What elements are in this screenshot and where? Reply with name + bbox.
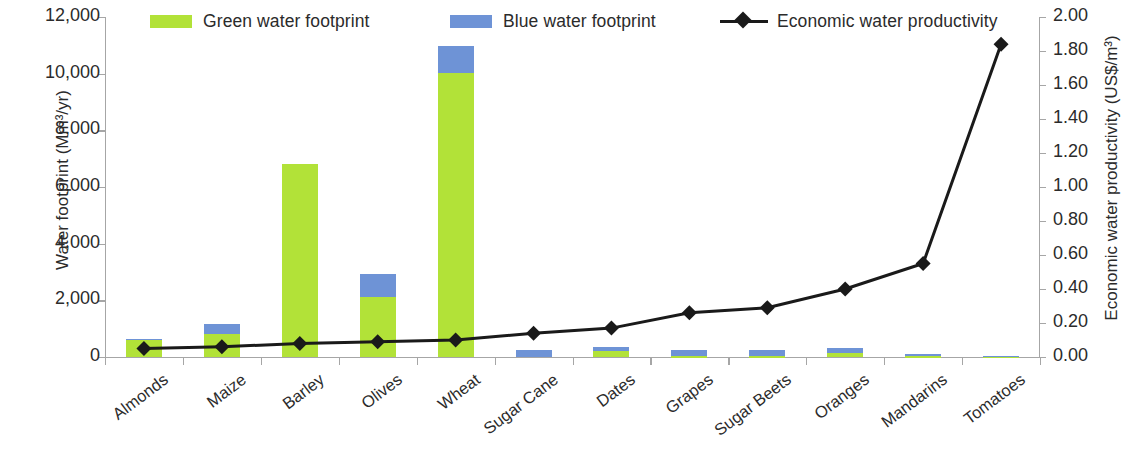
right-tick-mark bbox=[1039, 85, 1046, 86]
productivity-marker bbox=[370, 334, 385, 349]
productivity-marker bbox=[526, 326, 541, 341]
left-tick-label: 0 bbox=[0, 345, 100, 366]
productivity-line-series bbox=[105, 17, 1040, 358]
right-tick-mark bbox=[1039, 51, 1046, 52]
productivity-marker bbox=[214, 339, 229, 354]
right-tick-label: 1.20 bbox=[1053, 141, 1123, 162]
right-tick-mark bbox=[1039, 221, 1046, 222]
right-tick-label: 0.40 bbox=[1053, 277, 1123, 298]
productivity-marker bbox=[136, 341, 151, 356]
right-tick-label: 0.80 bbox=[1053, 209, 1123, 230]
right-tick-label: 1.00 bbox=[1053, 175, 1123, 196]
productivity-marker bbox=[916, 256, 931, 271]
right-tick-label: 0.00 bbox=[1053, 345, 1123, 366]
left-tick-label: 8,000 bbox=[0, 118, 100, 139]
productivity-marker bbox=[682, 305, 697, 320]
left-tick-label: 2,000 bbox=[0, 288, 100, 309]
productivity-marker bbox=[994, 37, 1009, 52]
right-tick-mark bbox=[1039, 289, 1046, 290]
left-tick-label: 4,000 bbox=[0, 232, 100, 253]
right-tick-label: 1.40 bbox=[1053, 107, 1123, 128]
left-tick-label: 12,000 bbox=[0, 5, 100, 26]
productivity-line bbox=[144, 44, 1001, 348]
x-axis-labels: AlmondsMaizeBarleyOlivesWheatSugar CaneD… bbox=[105, 362, 1040, 458]
plot-area: 02,0004,0006,0008,00010,00012,000 0.000.… bbox=[105, 17, 1040, 357]
productivity-marker bbox=[604, 321, 619, 336]
right-tick-mark bbox=[1039, 187, 1046, 188]
right-tick-mark bbox=[1039, 119, 1046, 120]
right-tick-label: 1.60 bbox=[1053, 73, 1123, 94]
right-tick-label: 1.80 bbox=[1053, 39, 1123, 60]
water-footprint-chart: Green water footprint Blue water footpri… bbox=[0, 0, 1125, 458]
right-tick-mark bbox=[1039, 323, 1046, 324]
productivity-marker bbox=[838, 282, 853, 297]
right-tick-label: 0.60 bbox=[1053, 243, 1123, 264]
right-tick-mark bbox=[1039, 153, 1046, 154]
right-tick-label: 2.00 bbox=[1053, 5, 1123, 26]
productivity-marker bbox=[292, 336, 307, 351]
right-tick-mark bbox=[1039, 255, 1046, 256]
right-tick-label: 0.20 bbox=[1053, 311, 1123, 332]
productivity-marker bbox=[448, 333, 463, 348]
x-tick-mark bbox=[1040, 358, 1041, 365]
left-tick-label: 10,000 bbox=[0, 62, 100, 83]
productivity-marker bbox=[760, 300, 775, 315]
right-tick-mark bbox=[1039, 17, 1046, 18]
left-tick-label: 6,000 bbox=[0, 175, 100, 196]
